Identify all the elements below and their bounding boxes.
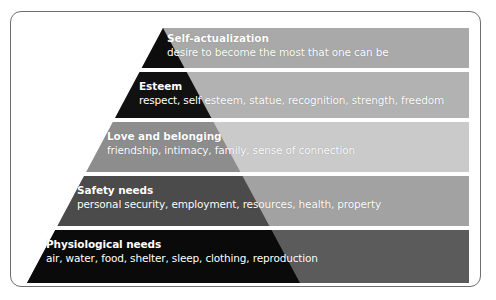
pyramid-diagram: [0, 0, 496, 300]
maslow-hierarchy-figure: Self-actualization desire to become the …: [0, 0, 496, 300]
pyramid-svg: [0, 0, 496, 300]
tier-band-self-actualization: [142, 28, 469, 68]
